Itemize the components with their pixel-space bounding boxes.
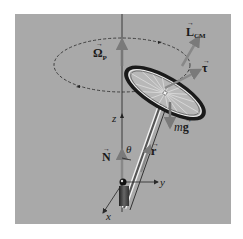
gyroscope-diagram: ΩP → LCM → τ → bbox=[0, 0, 243, 239]
pivot-post bbox=[119, 179, 129, 207]
angle-label: θ bbox=[126, 143, 132, 155]
angular-momentum-label: LCM bbox=[186, 25, 206, 40]
path-arrow-icon bbox=[158, 41, 162, 44]
z-axis-label: z bbox=[111, 112, 117, 124]
vector-arrow-mark: → bbox=[103, 145, 110, 153]
angle-arc bbox=[122, 158, 131, 160]
angular-momentum-vector bbox=[182, 37, 199, 66]
y-axis-label: y bbox=[159, 176, 165, 188]
bicycle-wheel bbox=[119, 58, 210, 128]
precession-label: ΩP bbox=[93, 46, 108, 62]
vector-arrow-mark: → bbox=[185, 116, 192, 124]
vector-arrow-mark: → bbox=[203, 57, 210, 65]
vector-arrow-mark: → bbox=[96, 40, 103, 48]
vector-arrow-mark: → bbox=[152, 140, 159, 148]
z-axis-arrow-icon bbox=[120, 113, 124, 118]
x-axis-label: x bbox=[105, 210, 111, 222]
vector-arrow-mark: → bbox=[187, 19, 194, 27]
